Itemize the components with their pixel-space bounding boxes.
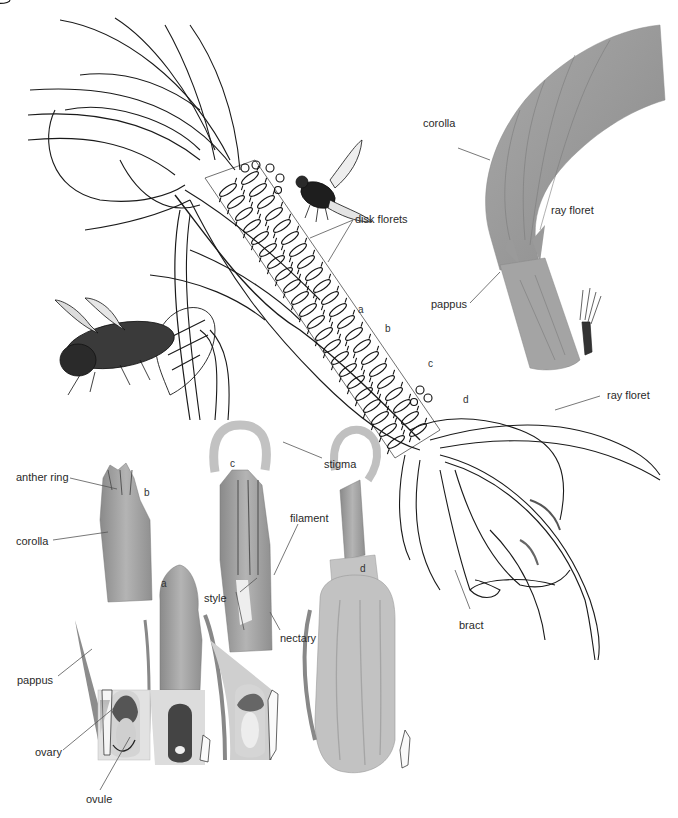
floret-d	[305, 430, 410, 773]
label-ray-floret-right: ray floret	[607, 389, 650, 401]
ray-floret-drawing	[400, 419, 660, 660]
bee-flying	[296, 140, 372, 222]
sunflower-head-drawing	[28, 18, 420, 450]
stage-letter-head-a: a	[358, 305, 364, 315]
label-corolla-ray: corolla	[423, 117, 455, 129]
label-disk-florets: disk florets	[355, 213, 408, 225]
label-ovule: ovule	[86, 793, 112, 805]
stage-letter-floret-c: c	[230, 459, 235, 469]
label-anther-ring: anther ring	[16, 471, 69, 483]
label-pappus-ray: pappus	[431, 298, 467, 310]
stage-letter-head-d: d	[463, 395, 469, 405]
label-corolla-disk: corolla	[16, 535, 48, 547]
stage-letter-head-c: c	[428, 359, 433, 369]
floret-b	[75, 463, 152, 760]
bee-on-leaf	[55, 298, 178, 395]
label-filament: filament	[290, 512, 329, 524]
stage-letter-floret-b: b	[144, 488, 150, 498]
stage-letter-head-b: b	[385, 324, 391, 334]
label-stigma: stigma	[324, 458, 356, 470]
stage-letter-floret-d: d	[360, 564, 366, 574]
label-ray-floret-top: ray floret	[551, 204, 594, 216]
stage-letter-floret-a: a	[161, 579, 167, 589]
label-nectary: nectary	[280, 632, 316, 644]
illustration-artwork	[0, 0, 678, 818]
label-ovary: ovary	[35, 746, 62, 758]
label-bract: bract	[459, 619, 483, 631]
botanical-illustration: disk florets corolla ray floret pappus r…	[0, 0, 678, 818]
disk-florets-rows	[0, 0, 432, 454]
label-style: style	[204, 592, 227, 604]
ray-floret-enlarged	[486, 25, 665, 370]
label-pappus-disk: pappus	[17, 674, 53, 686]
